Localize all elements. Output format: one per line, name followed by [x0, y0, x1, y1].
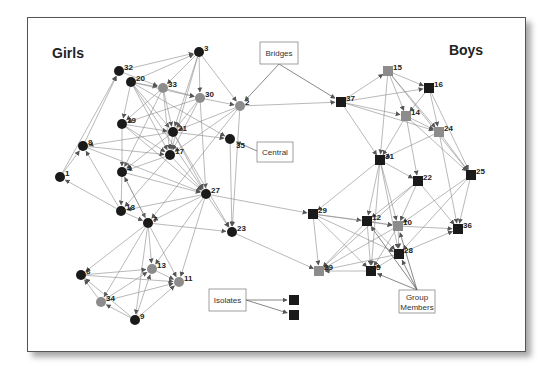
edge-27-29	[211, 195, 307, 213]
edge-27-23	[209, 198, 229, 227]
node-label: 11	[184, 274, 193, 283]
node-label: 3	[204, 44, 209, 53]
node-2: 2	[235, 98, 250, 111]
edge-9-34	[106, 305, 130, 318]
node-10: 10	[393, 218, 412, 231]
edge-23-29b	[237, 234, 314, 269]
edge-37-31	[344, 106, 377, 155]
node-label: 21	[178, 124, 187, 133]
node-label: 23	[237, 224, 246, 233]
node-label: 28	[404, 246, 413, 255]
edge-12-29b	[323, 225, 363, 267]
boy-node-icon	[401, 111, 411, 121]
edge-6-11	[86, 275, 173, 281]
node-iso1	[289, 295, 299, 305]
node-21: 21	[168, 124, 187, 137]
node-label: 4	[127, 164, 132, 173]
edge-15-14	[390, 76, 404, 111]
callout-lines-layer	[236, 64, 417, 313]
boy-node-icon	[466, 170, 476, 180]
boy-node-icon	[375, 155, 385, 165]
node-34: 34	[96, 294, 115, 307]
edge-13-11	[157, 271, 174, 279]
node-12: 12	[362, 213, 381, 226]
node-label: 14	[411, 108, 420, 117]
node-label: 10	[403, 218, 412, 227]
boy-node-icon	[289, 295, 299, 305]
girl-node-icon	[76, 270, 86, 280]
node-label: 27	[211, 186, 220, 195]
girl-node-icon	[201, 189, 211, 199]
node-label: 1	[65, 169, 70, 178]
girl-node-icon	[117, 119, 127, 129]
boy-node-icon	[308, 209, 318, 219]
node-label: 17	[175, 147, 184, 156]
node-3: 3	[194, 44, 209, 57]
node-label: 16	[434, 80, 443, 89]
node-label: 12	[372, 213, 381, 222]
edge-4-18	[121, 177, 122, 205]
node-23: 23	[227, 224, 246, 237]
node-label: 24	[444, 124, 453, 133]
callout-pointer-isolates	[246, 300, 287, 313]
edge-19-17	[126, 127, 165, 152]
callout-central: Central	[257, 142, 293, 162]
node-25: 25	[466, 167, 485, 180]
node-label: 22	[423, 173, 432, 182]
callout-group-members: GroupMembers	[399, 290, 435, 313]
node-label: 34	[106, 294, 115, 303]
edge-18-8	[86, 151, 118, 207]
edge-34-6	[85, 280, 98, 298]
node-label: 36	[463, 221, 472, 230]
edge-15-16	[393, 73, 424, 86]
edge-12-5	[367, 226, 370, 265]
edge-2-23	[232, 111, 239, 226]
callout-label: Group	[406, 293, 429, 302]
callout-label: Isolates	[214, 296, 242, 305]
node-22: 22	[413, 173, 432, 186]
node-18: 18	[116, 203, 135, 216]
boy-node-icon	[314, 266, 324, 276]
node-label: 15	[393, 63, 402, 72]
girl-node-icon	[165, 150, 175, 160]
node-label: 33	[168, 80, 177, 89]
node-9: 9	[130, 312, 145, 325]
girl-node-icon	[78, 141, 88, 151]
node-16: 16	[424, 80, 443, 93]
node-label: 8	[88, 138, 93, 147]
edge-33-17	[164, 93, 170, 149]
callout-pointer-bridges	[245, 64, 279, 101]
node-label: 29	[318, 206, 327, 215]
boy-node-icon	[394, 249, 404, 259]
edge-18-1	[65, 180, 116, 209]
node-label: 2	[245, 98, 250, 107]
edge-14-31	[383, 120, 403, 155]
callout-isolates: Isolates	[209, 289, 246, 311]
node-label: 7	[153, 215, 158, 224]
edge-21-8	[89, 133, 168, 145]
node-32: 32	[114, 63, 133, 76]
edge-30-2	[205, 99, 234, 105]
edge-1-32	[62, 76, 116, 172]
boy-node-icon	[393, 221, 403, 231]
girl-node-icon	[96, 297, 106, 307]
girl-node-icon	[126, 77, 136, 87]
girl-node-icon	[55, 172, 65, 182]
node-iso2	[289, 310, 299, 320]
callout-label: Members	[400, 303, 433, 312]
node-label: 9	[140, 312, 145, 321]
boy-node-icon	[336, 97, 346, 107]
girl-node-icon	[116, 206, 126, 216]
node-label: 19	[127, 116, 136, 125]
node-30: 30	[195, 90, 214, 103]
social-network-diagram: 3322033302192135817412718723136113491516…	[0, 0, 557, 367]
edge-25-28	[403, 179, 468, 250]
edge-30-27	[200, 103, 205, 188]
edge-18-7	[126, 213, 143, 221]
node-label: 31	[385, 152, 394, 161]
edge-27-13	[156, 198, 204, 264]
girl-node-icon	[168, 127, 178, 137]
callout-label: Central	[262, 148, 288, 157]
edge-10-28	[398, 231, 399, 248]
node-29b: 29	[314, 263, 333, 276]
